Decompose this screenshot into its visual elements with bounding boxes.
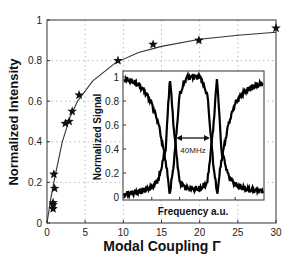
bandwidth-annotation: 40MHz [180, 146, 205, 155]
chart-figure: 05101520253000.20.40.60.81 Modal Couplin… [0, 0, 297, 266]
star-marker [74, 90, 84, 99]
x-tick-label: 30 [270, 227, 282, 238]
x-tick-label: 15 [156, 227, 168, 238]
y-tick-label: 0.4 [28, 136, 42, 147]
star-marker [148, 39, 158, 48]
y-tick-label: 0.6 [28, 96, 42, 107]
y-tick-label: 0 [36, 218, 42, 229]
y-tick-label: 0.2 [28, 177, 42, 188]
inset-y-tick-label: 1 [113, 72, 119, 83]
inset-y-axis-label: Normalized Signal [92, 93, 103, 180]
star-marker [194, 35, 204, 44]
x-axis-label: Modal Coupling Γ [103, 238, 221, 254]
x-tick-label: 25 [232, 227, 244, 238]
star-marker [50, 184, 60, 193]
x-tick-label: 10 [118, 227, 130, 238]
x-tick-label: 5 [82, 227, 88, 238]
inset-x-axis-label: Frequency a.u. [158, 206, 229, 217]
y-axis-label: Normalized Intensity [6, 58, 21, 186]
inset-y-tick-label: 0.8 [105, 96, 119, 107]
inset-y-tick-label: 0.4 [105, 144, 119, 155]
star-marker [49, 169, 59, 178]
x-tick-label: 20 [194, 227, 206, 238]
x-tick-label: 0 [44, 227, 50, 238]
star-marker [67, 106, 77, 115]
y-tick-label: 0.8 [28, 55, 42, 66]
y-tick-label: 1 [36, 15, 42, 26]
inset-y-tick-label: 0 [113, 192, 119, 203]
inset-y-tick-label: 0.6 [105, 120, 119, 131]
inset-y-tick-label: 0.2 [105, 168, 119, 179]
